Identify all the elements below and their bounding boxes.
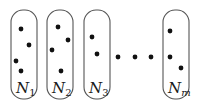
point bbox=[59, 69, 64, 74]
set-label: N2 bbox=[51, 79, 72, 98]
set-n1: N1 bbox=[11, 10, 37, 99]
point bbox=[14, 59, 19, 64]
set-nm: Nm bbox=[163, 10, 191, 99]
point bbox=[56, 25, 61, 30]
set-n3: N3 bbox=[84, 10, 110, 99]
point bbox=[90, 35, 95, 40]
sets-diagram: N1N2N3Nm bbox=[0, 0, 202, 111]
point bbox=[19, 27, 24, 32]
ellipsis-dot bbox=[133, 55, 138, 60]
ellipsis-dot bbox=[149, 55, 154, 60]
ellipsis-dot bbox=[116, 55, 121, 60]
set-label: N1 bbox=[15, 79, 36, 98]
point bbox=[168, 55, 173, 60]
point bbox=[19, 69, 24, 74]
point bbox=[168, 29, 173, 34]
set-label: Nm bbox=[167, 79, 191, 98]
set-n2: N2 bbox=[47, 10, 73, 99]
ellipsis bbox=[116, 55, 154, 60]
point bbox=[27, 43, 32, 48]
point bbox=[50, 48, 55, 53]
point bbox=[95, 52, 100, 57]
set-label: N3 bbox=[88, 79, 109, 98]
point bbox=[179, 66, 184, 71]
point bbox=[66, 38, 71, 43]
